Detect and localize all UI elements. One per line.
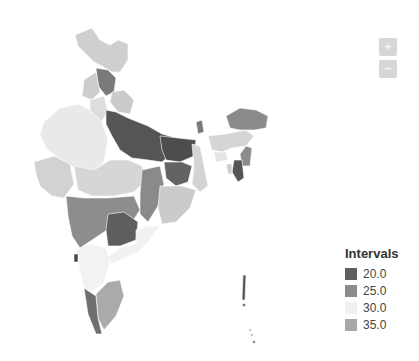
zoom-out-button[interactable]: −: [379, 60, 397, 78]
state-odisha: [158, 186, 196, 224]
legend-label: 35.0: [363, 318, 386, 332]
state-meghalaya: [214, 152, 228, 162]
state-tripura: [226, 164, 232, 174]
state-jammu-kashmir: [75, 28, 128, 72]
state-bihar: [160, 136, 196, 162]
state-tamil-nadu: [96, 280, 124, 330]
legend-item-30: 30.0: [345, 299, 398, 316]
state-sikkim: [196, 120, 204, 134]
legend-item-20: 20.0: [345, 265, 398, 282]
legend-item-25: 25.0: [345, 282, 398, 299]
legend-label: 25.0: [363, 284, 386, 298]
state-uttarakhand: [110, 90, 134, 114]
state-west-bengal: [192, 144, 208, 192]
state-goa: [74, 254, 78, 262]
legend-swatch: [345, 285, 357, 297]
state-arunachal: [226, 108, 268, 130]
legend-item-35: 35.0: [345, 316, 398, 333]
legend-label: 20.0: [363, 267, 386, 281]
legend-title: Intervals: [345, 246, 398, 261]
legend: Intervals 20.0 25.0 30.0 35.0: [345, 246, 398, 333]
islands-andaman: [242, 275, 246, 300]
legend-swatch: [345, 302, 357, 314]
zoom-in-button[interactable]: +: [379, 38, 397, 56]
legend-swatch: [345, 319, 357, 331]
legend-label: 30.0: [363, 301, 386, 315]
state-jharkhand: [164, 162, 192, 186]
islands-nicobar: [243, 304, 246, 307]
legend-swatch: [345, 268, 357, 280]
state-mizoram: [232, 160, 244, 182]
